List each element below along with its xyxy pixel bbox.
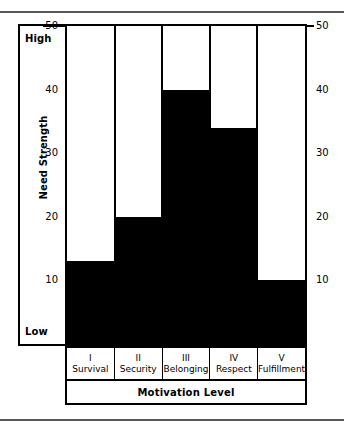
- y-tick-label-right-30: 30: [316, 148, 329, 158]
- y-tick-label-right-20: 20: [316, 212, 329, 222]
- y-tick-mark-left-50: [43, 25, 65, 27]
- plot-area: [65, 24, 307, 346]
- category-cell-fulfillment: VFulfillment: [258, 348, 305, 379]
- category-numeral: IV: [229, 353, 238, 364]
- y-tick-label-right-40: 40: [316, 85, 329, 95]
- bar-survival: [67, 261, 115, 344]
- category-numeral: II: [136, 353, 141, 364]
- category-name: Belonging: [163, 364, 208, 375]
- category-name: Security: [120, 364, 157, 375]
- column-divider: [256, 26, 258, 344]
- y-tick-label-right-50: 50: [316, 21, 329, 31]
- y-axis-ticks-left: 1020304050: [26, 24, 62, 346]
- figure-container: High Low Need Strength 1020304050 102030…: [0, 0, 344, 433]
- y-axis-ticks-right: 1020304050: [312, 24, 342, 346]
- y-tick-label-left-30: 30: [45, 148, 58, 158]
- category-cell-respect: IVRespect: [210, 348, 258, 379]
- x-axis-title-band: Motivation Level: [65, 381, 307, 405]
- bar-security: [115, 217, 163, 344]
- y-tick-mark-right-50: [306, 25, 314, 27]
- bar-belonging: [162, 90, 210, 344]
- category-cell-security: IISecurity: [115, 348, 163, 379]
- category-name: Survival: [72, 364, 108, 375]
- bars-layer: [67, 26, 305, 344]
- column-divider: [209, 26, 211, 344]
- bar-fulfillment: [257, 280, 305, 344]
- top-divider-rule: [0, 11, 344, 13]
- category-numeral: V: [279, 353, 285, 364]
- category-name: Fulfillment: [258, 364, 305, 375]
- category-name: Respect: [216, 364, 252, 375]
- category-cell-belonging: IIIBelonging: [163, 348, 211, 379]
- x-axis-title: Motivation Level: [137, 387, 234, 398]
- category-cell-survival: ISurvival: [67, 348, 115, 379]
- category-numeral: I: [89, 353, 92, 364]
- bar-respect: [210, 128, 258, 344]
- column-divider: [114, 26, 116, 344]
- y-tick-label-left-40: 40: [45, 85, 58, 95]
- category-numeral: III: [182, 353, 190, 364]
- y-tick-label-right-10: 10: [316, 275, 329, 285]
- category-axis-row: ISurvivalIISecurityIIIBelongingIVRespect…: [65, 346, 307, 381]
- column-divider: [161, 26, 163, 344]
- bottom-divider-rule: [0, 419, 344, 421]
- y-tick-label-left-20: 20: [45, 212, 58, 222]
- y-tick-label-left-10: 10: [45, 275, 58, 285]
